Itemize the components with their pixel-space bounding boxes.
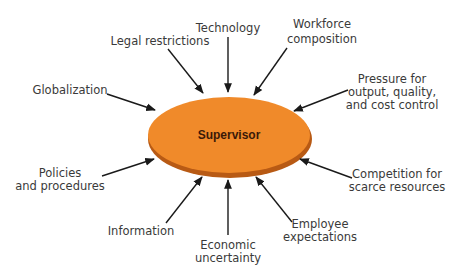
- label-policies-2: and procedures: [15, 179, 105, 193]
- supervisor-label: Supervisor: [198, 128, 261, 142]
- label-globalization: Globalization: [33, 83, 108, 97]
- arrow-workforce: [254, 48, 287, 95]
- supervisor-influences-diagram: Supervisor Technology Legal restrictions…: [0, 0, 458, 277]
- arrow-pressure: [294, 90, 348, 111]
- label-pressure-2: output, quality,: [348, 85, 436, 99]
- label-technology: Technology: [195, 21, 261, 35]
- arrow-policies: [102, 159, 154, 176]
- arrow-globalization: [107, 94, 155, 110]
- supervisor-node: Supervisor: [148, 97, 312, 178]
- label-workforce-1: Workforce: [293, 17, 351, 31]
- label-competition-2: scarce resources: [349, 180, 446, 194]
- label-employee-1: Employee: [292, 217, 349, 231]
- label-pressure-3: and cost control: [346, 98, 439, 112]
- label-information: Information: [108, 224, 175, 238]
- label-economic-2: uncertainty: [195, 251, 261, 265]
- arrow-legal: [168, 49, 203, 93]
- arrow-employee: [256, 177, 292, 222]
- label-employee-2: expectations: [283, 230, 357, 244]
- label-policies-1: Policies: [39, 166, 82, 180]
- label-economic-1: Economic: [200, 238, 256, 252]
- label-workforce-2: composition: [287, 32, 357, 46]
- label-pressure-1: Pressure for: [358, 72, 427, 86]
- label-legal: Legal restrictions: [111, 34, 210, 48]
- label-competition-1: Competition for: [352, 167, 442, 181]
- arrow-information: [166, 177, 202, 223]
- arrow-competition: [300, 159, 352, 178]
